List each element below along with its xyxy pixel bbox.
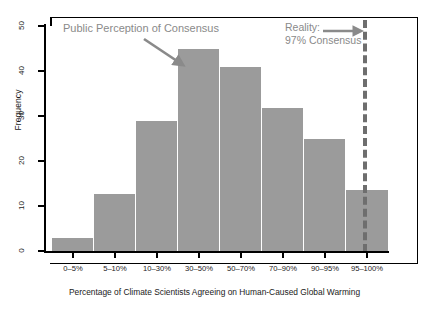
bar-0-5 (52, 238, 94, 251)
x-tick-90-95 (324, 252, 326, 258)
annotation-public-perception-label: Public Perception of Consensus (63, 22, 219, 34)
x-tick-70-90 (282, 252, 284, 258)
bar-90-95 (304, 139, 346, 251)
histogram-figure: Frequency 50 40 30 20 10 0 0–5% 5–10% 10… (0, 0, 429, 313)
annotation-reality-arrow-icon (322, 23, 368, 41)
x-tick-5-10 (114, 252, 116, 258)
annotation-public-perception-arrow-icon (140, 36, 196, 76)
bar-30-50 (178, 49, 220, 251)
bar-95-100 (346, 190, 388, 251)
x-tick-0-5 (72, 252, 74, 258)
bar-5-10 (94, 194, 136, 251)
x-axis-title: Percentage of Climate Scientists Agreein… (0, 287, 429, 297)
x-tick-10-30 (156, 252, 158, 258)
x-tick-30-50 (198, 252, 200, 258)
x-tick-95-100 (366, 252, 368, 258)
bar-10-30 (136, 121, 178, 251)
x-axis-line (44, 251, 389, 253)
bar-70-90 (262, 108, 304, 251)
x-tick-50-70 (240, 252, 242, 258)
reality-reference-line (363, 20, 367, 252)
bar-50-70 (220, 67, 262, 251)
x-tick-label-95-100: 95–100% (340, 264, 394, 273)
